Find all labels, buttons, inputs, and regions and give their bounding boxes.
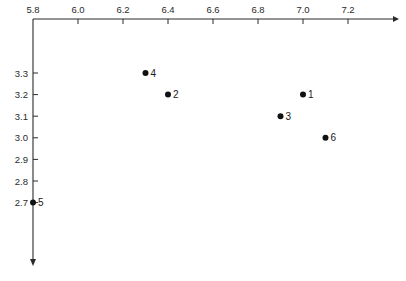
data-point: 2 [165, 89, 179, 100]
y-tick-label: 2.9 [15, 154, 28, 165]
x-tick-label: 6.6 [206, 4, 219, 15]
data-point: 6 [323, 132, 337, 143]
y-axis-ticks: 3.33.23.13.02.92.82.7 [15, 68, 38, 209]
x-tick-label: 6.8 [251, 4, 264, 15]
x-axis-ticks: 5.86.06.26.46.66.87.07.2 [26, 4, 354, 24]
x-tick-label: 6.0 [71, 4, 84, 15]
x-tick-label: 7.2 [341, 4, 354, 15]
data-point: 4 [143, 68, 157, 79]
point-label: 4 [151, 68, 157, 79]
y-tick-label: 3.2 [15, 89, 28, 100]
point-label: 3 [286, 111, 292, 122]
point-marker-icon [30, 200, 36, 206]
x-tick-label: 6.2 [116, 4, 129, 15]
axes [30, 16, 399, 266]
point-marker-icon [143, 70, 149, 76]
x-tick-label: 7.0 [296, 4, 309, 15]
x-axis-arrow-icon [393, 16, 399, 22]
x-tick-label: 5.8 [26, 4, 39, 15]
point-marker-icon [300, 92, 306, 98]
y-tick-label: 2.7 [15, 197, 28, 208]
point-label: 2 [173, 89, 179, 100]
point-marker-icon [165, 92, 171, 98]
data-points: 123456 [30, 68, 337, 209]
y-tick-label: 2.8 [15, 176, 28, 187]
data-point: 1 [300, 89, 314, 100]
scatter-chart: 5.86.06.26.46.66.87.07.2 3.33.23.13.02.9… [0, 0, 406, 281]
point-label: 5 [38, 197, 44, 208]
y-tick-label: 3.1 [15, 111, 28, 122]
point-marker-icon [323, 135, 329, 141]
y-tick-label: 3.3 [15, 68, 28, 79]
point-marker-icon [278, 113, 284, 119]
data-point: 3 [278, 111, 292, 122]
point-label: 1 [308, 89, 314, 100]
point-label: 6 [331, 132, 337, 143]
y-axis-arrow-icon [30, 259, 36, 266]
x-tick-label: 6.4 [161, 4, 174, 15]
y-tick-label: 3.0 [15, 132, 28, 143]
